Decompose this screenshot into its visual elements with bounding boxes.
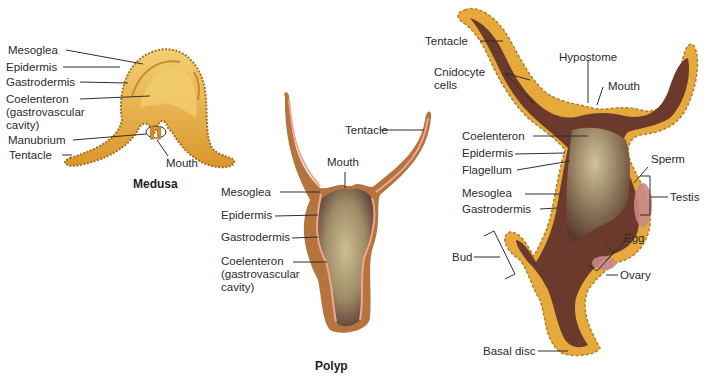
hydra-label-ovary: Ovary — [620, 269, 651, 282]
hydra-label-sperm: Sperm — [651, 153, 685, 166]
cnidarian-body-plans-diagram: Mesoglea Epidermis Gastrodermis Coelente… — [0, 0, 711, 377]
polyp-caption: Polyp — [315, 359, 348, 373]
medusa-label-coelenteron-line3: cavity) — [6, 119, 39, 132]
hydra-label-bud: Bud — [452, 251, 472, 264]
medusa-caption: Medusa — [133, 177, 178, 191]
hydra-label-coelenteron: Coelenteron — [462, 130, 525, 143]
medusa-label-manubrium: Manubrium — [8, 134, 66, 147]
medusa-label-coelenteron-line2: (gastrovascular — [6, 106, 85, 119]
hydra-label-cnidocyte: Cnidocyte — [434, 66, 485, 79]
polyp-label-gastrodermis: Gastrodermis — [221, 231, 290, 244]
medusa-label-mouth: Mouth — [166, 157, 198, 170]
polyp-label-coelenteron: Coelenteron — [221, 255, 284, 268]
hydra-label-mesoglea: Mesoglea — [462, 187, 512, 200]
hydra-label-basal-disc: Basal disc — [483, 345, 535, 358]
polyp-label-mouth: Mouth — [327, 156, 359, 169]
medusa-label-epidermis: Epidermis — [6, 61, 57, 74]
hydra-label-gastrodermis: Gastrodermis — [462, 203, 531, 216]
polyp-label-mesoglea: Mesoglea — [221, 186, 271, 199]
medusa-label-mesoglea: Mesoglea — [8, 44, 58, 57]
hydra-label-cnidocyte-line2: cells — [434, 79, 457, 92]
hydra-label-testis: Testis — [670, 191, 699, 204]
medusa-label-tentacle: Tentacle — [9, 149, 52, 162]
medusa-label-coelenteron: Coelenteron — [6, 93, 69, 106]
hydra-label-hypostome: Hypostome — [559, 51, 617, 64]
hydra-label-egg: Egg — [624, 232, 644, 245]
polyp-label-tentacle: Tentacle — [345, 124, 388, 137]
medusa-label-gastrodermis: Gastrodermis — [6, 76, 75, 89]
hydra-label-mouth: Mouth — [608, 80, 640, 93]
hydra-label-tentacle: Tentacle — [425, 35, 468, 48]
polyp-label-coelenteron-line2: (gastrovascular — [221, 268, 300, 281]
hydra-label-epidermis: Epidermis — [462, 147, 513, 160]
polyp-label-epidermis: Epidermis — [221, 209, 272, 222]
polyp-label-coelenteron-line3: cavity) — [221, 281, 254, 294]
hydra-label-flagellum: Flagellum — [462, 164, 512, 177]
